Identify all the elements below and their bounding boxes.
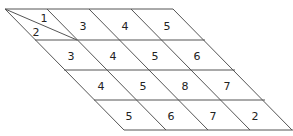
cell: 5 [140, 80, 147, 93]
cell: 8 [182, 80, 189, 93]
cell: 3 [68, 50, 75, 63]
cell: 5 [152, 50, 159, 63]
cell: 7 [224, 80, 231, 93]
cell: 2 [252, 110, 259, 123]
cell: 6 [194, 50, 201, 63]
cell: 3 [80, 20, 87, 33]
corner-upper: 1 [41, 12, 48, 25]
cell: 6 [168, 110, 175, 123]
corner-lower: 2 [33, 26, 40, 39]
cell: 5 [164, 20, 171, 33]
cell: 4 [110, 50, 117, 63]
cell: 4 [122, 20, 129, 33]
cell: 5 [126, 110, 133, 123]
cell: 7 [210, 110, 217, 123]
cell: 4 [98, 80, 105, 93]
